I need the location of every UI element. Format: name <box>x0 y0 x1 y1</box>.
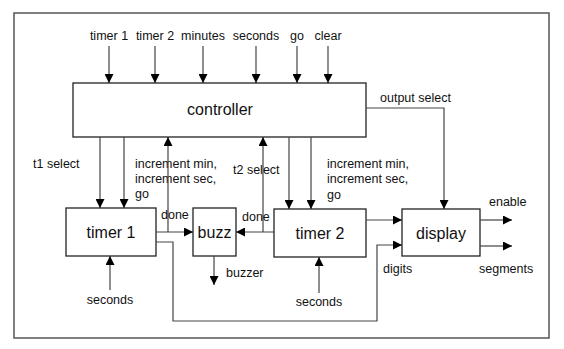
input-label-timer1: timer 1 <box>90 29 128 43</box>
controller-block: controller <box>73 83 366 137</box>
timer2-seconds-signal: seconds <box>296 257 343 309</box>
segments-label: segments <box>479 262 533 276</box>
display-outputs: enable segments <box>479 195 533 276</box>
output-select-signal: output select <box>366 91 451 209</box>
controller-inputs: timer 1 timer 2 minutes seconds go clear <box>90 29 342 83</box>
display-label: display <box>416 225 466 242</box>
t1-increment-label-3: go <box>135 187 149 201</box>
input-label-timer2: timer 2 <box>136 29 174 43</box>
t2-increment-label-2: increment sec, <box>327 172 408 186</box>
t1-increment-label-2: increment sec, <box>135 172 216 186</box>
controller-label: controller <box>187 101 253 118</box>
timer1-label: timer 1 <box>87 224 136 241</box>
block-diagram: timer 1 timer 2 minutes seconds go clear… <box>0 0 564 349</box>
t1-select-label: t1 select <box>33 157 80 171</box>
t1-seconds-label: seconds <box>87 293 134 307</box>
t1-increment-label-1: increment min, <box>135 157 217 171</box>
digits-label: digits <box>383 262 412 276</box>
timer2-done-signal: done t2 select <box>233 137 280 232</box>
enable-label: enable <box>489 195 527 209</box>
buzz-block: buzz <box>193 208 236 256</box>
t2-done-label: done <box>242 210 270 224</box>
t1-done-label: done <box>161 208 189 222</box>
timer2-label: timer 2 <box>296 225 345 242</box>
output-select-label: output select <box>380 91 451 105</box>
t2-select-label: t2 select <box>233 163 280 177</box>
timer2-block: timer 2 <box>274 209 366 257</box>
input-label-seconds: seconds <box>233 29 280 43</box>
t2-increment-label-1: increment min, <box>327 157 409 171</box>
input-label-go: go <box>290 29 304 43</box>
input-label-minutes: minutes <box>181 29 225 43</box>
input-label-clear: clear <box>314 29 341 43</box>
diagram-frame <box>14 13 549 338</box>
timer1-control-signals: t1 select increment min, increment sec, … <box>33 137 217 208</box>
timer1-seconds-signal: seconds <box>87 256 134 307</box>
display-block: display <box>402 209 480 256</box>
buzzer-label: buzzer <box>226 266 264 280</box>
buzz-label: buzz <box>198 224 232 241</box>
timer2-control-signals: increment min, increment sec, go <box>289 137 409 209</box>
t2-increment-label-3: go <box>327 188 341 202</box>
buzzer-signal: buzzer <box>214 256 264 285</box>
t2-seconds-label: seconds <box>296 295 343 309</box>
timer1-block: timer 1 <box>66 208 156 256</box>
